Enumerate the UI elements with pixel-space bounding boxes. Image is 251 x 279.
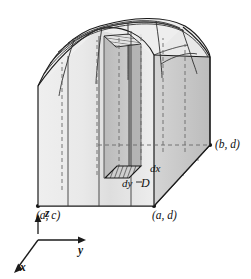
label-corner-bd: (b, d) — [215, 139, 240, 151]
label-dy: dy — [122, 178, 132, 189]
label-dx: dx — [150, 163, 160, 174]
figure-root: (a, c) (a, d) (b, d) dx dy D z y x — [0, 0, 251, 279]
label-corner-ad: (a, d) — [152, 210, 177, 222]
prism-column — [104, 34, 141, 178]
label-domain-D: D — [141, 177, 150, 189]
figure-canvas — [0, 0, 251, 279]
label-axis-y: y — [78, 245, 83, 257]
label-axis-z: z — [45, 208, 49, 220]
label-axis-x: x — [20, 262, 26, 274]
y-arrowhead — [78, 237, 86, 244]
